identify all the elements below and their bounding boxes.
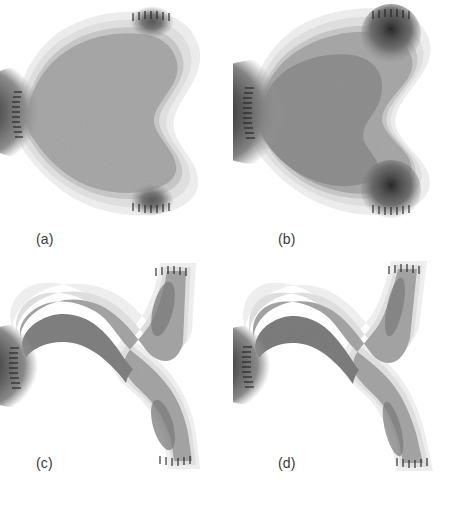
panel-c: (c) bbox=[0, 253, 233, 505]
panel-d-plot bbox=[233, 253, 466, 478]
panel-a-label: (a) bbox=[36, 231, 54, 247]
panel-c-plot bbox=[0, 253, 233, 478]
panel-a-hotspot-lower-right bbox=[130, 184, 174, 216]
panel-b-label: (b) bbox=[278, 231, 296, 247]
panel-a-plot bbox=[0, 0, 233, 225]
panel-b-plot bbox=[233, 0, 466, 225]
panel-b: (b) bbox=[233, 0, 466, 252]
panel-a-hotspot-upper-right bbox=[130, 6, 174, 38]
panel-c-label: (c) bbox=[36, 455, 53, 471]
panel-d-label: (d) bbox=[278, 455, 296, 471]
panel-a: (a) bbox=[0, 0, 233, 252]
figure-contour-panels: (a) bbox=[0, 0, 466, 505]
panel-d: (d) bbox=[233, 253, 466, 505]
